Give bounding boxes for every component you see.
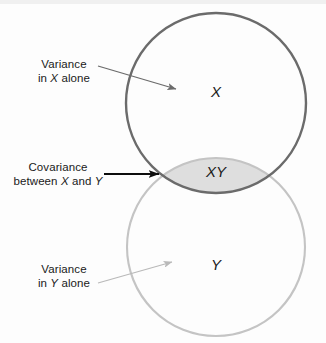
callout-variance-y-line1: Variance — [41, 263, 86, 275]
callout-variance-x-line2-pre: in — [38, 72, 50, 84]
callout-covariance-line2-mid: and — [69, 175, 95, 187]
callout-variance-in-x: Variance in X alone — [16, 57, 112, 85]
callout-covariance-line1: Covariance — [28, 161, 87, 173]
callout-covariance-variable-x: X — [61, 175, 69, 187]
callout-variance-y-line2-pre: in — [38, 277, 50, 289]
set-label-y: Y — [196, 256, 236, 273]
callout-covariance-variable-y: Y — [95, 175, 103, 187]
callout-variance-x-variable: X — [50, 72, 58, 84]
callout-variance-x-line2-post: alone — [58, 72, 90, 84]
venn-diagram-figure: Variance in X alone Covariance between X… — [0, 0, 326, 343]
set-label-xy: XY — [192, 163, 240, 180]
set-label-x: X — [196, 83, 236, 100]
callout-variance-y-variable: Y — [50, 277, 58, 289]
callout-covariance-line2-pre: between — [13, 175, 60, 187]
callout-covariance: Covariance between X and Y — [2, 160, 114, 188]
callout-variance-x-line1: Variance — [41, 58, 86, 70]
callout-variance-y-line2-post: alone — [58, 277, 90, 289]
callout-variance-in-y: Variance in Y alone — [16, 262, 112, 290]
